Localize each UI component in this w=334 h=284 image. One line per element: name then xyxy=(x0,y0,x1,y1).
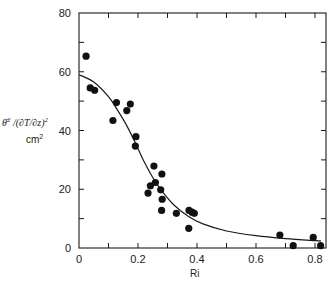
y-tick-label: 0 xyxy=(65,242,71,254)
data-point xyxy=(132,133,139,140)
y-tick-label: 60 xyxy=(59,66,71,78)
data-point xyxy=(82,53,89,60)
y-tick-labels: 020406080 xyxy=(59,7,71,254)
data-point xyxy=(317,242,324,249)
x-tick-label: 0 xyxy=(76,253,82,265)
data-point xyxy=(290,242,297,249)
data-point xyxy=(191,210,198,217)
x-tick-label: 0.8 xyxy=(307,253,322,265)
data-point xyxy=(310,234,317,241)
y-tick-label: 20 xyxy=(59,183,71,195)
x-axis-label: Ri xyxy=(190,268,199,279)
data-point xyxy=(157,186,164,193)
y-axis-units: cm2 xyxy=(26,133,43,145)
data-points xyxy=(82,53,324,250)
data-point xyxy=(109,117,116,124)
data-point xyxy=(127,100,134,107)
data-point xyxy=(159,196,166,203)
plot-border xyxy=(79,13,326,248)
y-tick-label: 80 xyxy=(59,7,71,19)
data-point xyxy=(152,179,159,186)
x-tick-labels: 00.20.40.60.8 xyxy=(76,253,323,265)
plot-frame xyxy=(79,13,326,248)
data-point xyxy=(185,225,192,232)
data-point xyxy=(158,207,165,214)
y-tick-label: 40 xyxy=(59,125,71,137)
data-point xyxy=(91,87,98,94)
data-point xyxy=(113,99,120,106)
x-tick-label: 0.6 xyxy=(248,253,263,265)
axis-ticks xyxy=(79,13,326,248)
data-point xyxy=(144,189,151,196)
x-tick-label: 0.2 xyxy=(130,253,145,265)
data-point xyxy=(276,231,283,238)
data-point xyxy=(173,210,180,217)
data-point xyxy=(132,142,139,149)
scatter-chart: 00.20.40.60.8 020406080 Ri θ̄2 /(∂T/∂z)2… xyxy=(0,0,334,284)
y-axis-label: θ̄2 /(∂T/∂z)2 xyxy=(2,116,48,129)
data-point xyxy=(150,162,157,169)
data-point xyxy=(158,170,165,177)
data-point xyxy=(123,107,130,114)
x-tick-label: 0.4 xyxy=(189,253,204,265)
